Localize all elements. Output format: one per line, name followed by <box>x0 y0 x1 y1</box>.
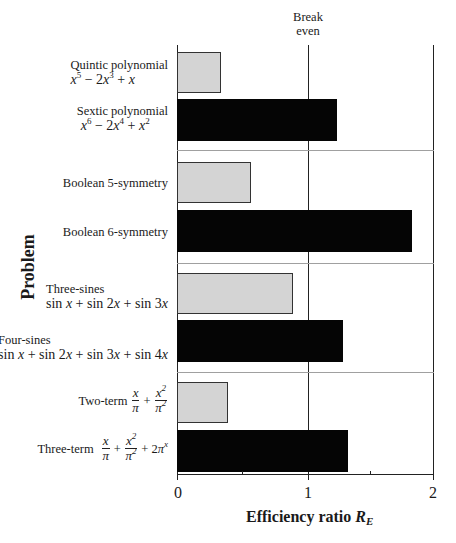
bar-four-sines <box>177 320 343 362</box>
boolean-6-name: Boolean 6-symmetry <box>63 225 168 239</box>
three-sines-name: Three-sines <box>46 282 168 296</box>
minor-tick <box>370 471 371 475</box>
x-axis-line <box>177 474 434 475</box>
x2-boundary-line <box>433 45 434 475</box>
fraction-x2-over-pi2: x2π2 <box>125 434 137 463</box>
bar-boolean-6 <box>177 210 412 252</box>
bar-three-sines <box>177 273 293 314</box>
group-separator <box>177 150 434 151</box>
major-tick <box>308 474 309 480</box>
x-axis-title-subscript: E <box>366 515 373 527</box>
quintic-name: Quintic polynomial <box>70 58 168 72</box>
sextic-formula: x6 − 2x4 + x2 <box>77 118 168 134</box>
four-sines-name: Four-sines <box>0 333 168 347</box>
y-axis-title: Problem <box>18 222 39 312</box>
group-separator <box>177 372 434 373</box>
tick-label-2: 2 <box>423 484 443 502</box>
tick-label-0: 0 <box>168 484 188 502</box>
label-sextic: Sextic polynomial x6 − 2x4 + x2 <box>77 104 168 134</box>
major-tick <box>433 474 434 480</box>
boolean-5-name: Boolean 5-symmetry <box>63 176 168 190</box>
bar-sextic <box>177 99 337 141</box>
two-term-name: Two-term <box>78 394 127 408</box>
label-boolean-5: Boolean 5-symmetry <box>63 176 168 190</box>
label-three-term: Three-term xπ + x2π2 + 2πx <box>37 434 168 463</box>
fraction-x-over-pi: xπ <box>102 434 110 463</box>
group-separator <box>177 263 434 264</box>
fraction-x-over-pi: xπ <box>132 386 140 415</box>
minor-tick <box>242 471 243 475</box>
major-tick <box>177 474 178 480</box>
label-four-sines: Four-sines sin x + sin 2x + sin 3x + sin… <box>0 333 168 363</box>
x-axis-title-symbol: R <box>355 508 366 525</box>
bar-boolean-5 <box>177 162 251 203</box>
x-axis-title-text: Efficiency ratio <box>246 508 355 525</box>
three-sines-formula: sin x + sin 2x + sin 3x <box>46 296 168 312</box>
bar-quintic <box>177 52 221 93</box>
quintic-formula: x5 − 2x3 + x <box>70 72 168 88</box>
fraction-x2-over-pi2: x2π2 <box>155 386 167 415</box>
label-three-sines: Three-sines sin x + sin 2x + sin 3x <box>46 282 168 312</box>
x-axis-title: Efficiency ratio RE <box>246 508 373 527</box>
label-boolean-6: Boolean 6-symmetry <box>63 225 168 239</box>
three-term-name: Three-term <box>37 442 93 456</box>
bar-three-term <box>177 430 348 472</box>
four-sines-formula: sin x + sin 2x + sin 3x + sin 4x <box>0 347 168 363</box>
break-even-text-1: Break <box>288 10 328 24</box>
label-two-term: Two-term xπ + x2π2 <box>78 386 168 415</box>
label-quintic: Quintic polynomial x5 − 2x3 + x <box>70 58 168 88</box>
break-even-text-2: even <box>288 24 328 38</box>
bar-two-term <box>177 382 228 423</box>
tick-label-1: 1 <box>298 484 318 502</box>
break-even-annotation: Break even <box>288 10 328 38</box>
